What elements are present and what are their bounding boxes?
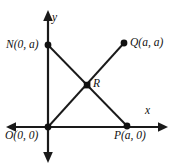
- point-marker-n: [45, 42, 52, 49]
- point-label-q: Q(a, a): [130, 37, 163, 49]
- diagram-canvas: [0, 0, 174, 168]
- x-axis-right-arrowhead: [158, 122, 168, 132]
- point-label-p: P(a, 0): [114, 130, 146, 142]
- y-axis-bottom-arrowhead: [43, 152, 53, 163]
- y-axis-label: y: [52, 12, 57, 24]
- coordinate-diagram: y x N(0, a) Q(a, a) R O(0, 0) P(a, 0): [0, 0, 174, 168]
- point-label-o: O(0, 0): [5, 130, 38, 142]
- x-axis-label: x: [145, 105, 150, 117]
- point-marker-q: [121, 40, 128, 47]
- point-label-n: N(0, a): [6, 39, 39, 51]
- point-marker-r: [84, 82, 91, 89]
- point-marker-o: [45, 124, 52, 131]
- point-label-r: R: [93, 78, 100, 90]
